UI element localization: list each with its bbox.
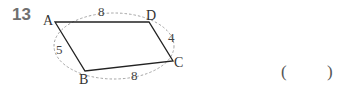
vertex-c-label: C xyxy=(174,55,183,70)
vertex-a-label: A xyxy=(43,13,54,28)
quadrilateral-figure: A D C B 8 4 5 8 xyxy=(0,0,349,94)
answer-paren-close: ) xyxy=(327,62,333,82)
side-ab-length: 5 xyxy=(56,42,63,57)
answer-paren-open: ( xyxy=(281,62,287,82)
vertex-b-label: B xyxy=(79,72,88,87)
quadrilateral-abcd xyxy=(55,22,173,71)
vertex-d-label: D xyxy=(146,8,156,23)
side-ad-length: 8 xyxy=(98,4,105,19)
side-bc-length: 8 xyxy=(131,68,138,83)
side-dc-length: 4 xyxy=(168,30,175,45)
